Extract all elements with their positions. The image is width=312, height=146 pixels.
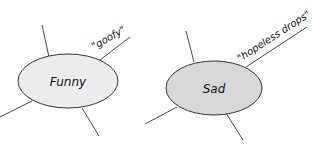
sad-node-group: Sad "hopeless drops" — [145, 8, 312, 140]
sad-node-label: Sad — [203, 82, 226, 96]
sad-branch-left — [145, 107, 177, 124]
funny-node-label: Funny — [50, 75, 87, 89]
funny-branch-top — [42, 25, 49, 57]
mind-map-diagram: Funny "goofy" Sad "hopeless drops" — [0, 0, 312, 146]
funny-branch-left — [0, 101, 32, 117]
funny-branch-bottom — [82, 108, 99, 136]
funny-node-group: Funny "goofy" — [0, 24, 130, 136]
funny-annotation: "goofy" — [90, 24, 128, 52]
sad-branch-bottom — [226, 113, 243, 140]
sad-annotation: "hopeless drops" — [235, 8, 312, 63]
sad-branch-top — [186, 31, 194, 62]
